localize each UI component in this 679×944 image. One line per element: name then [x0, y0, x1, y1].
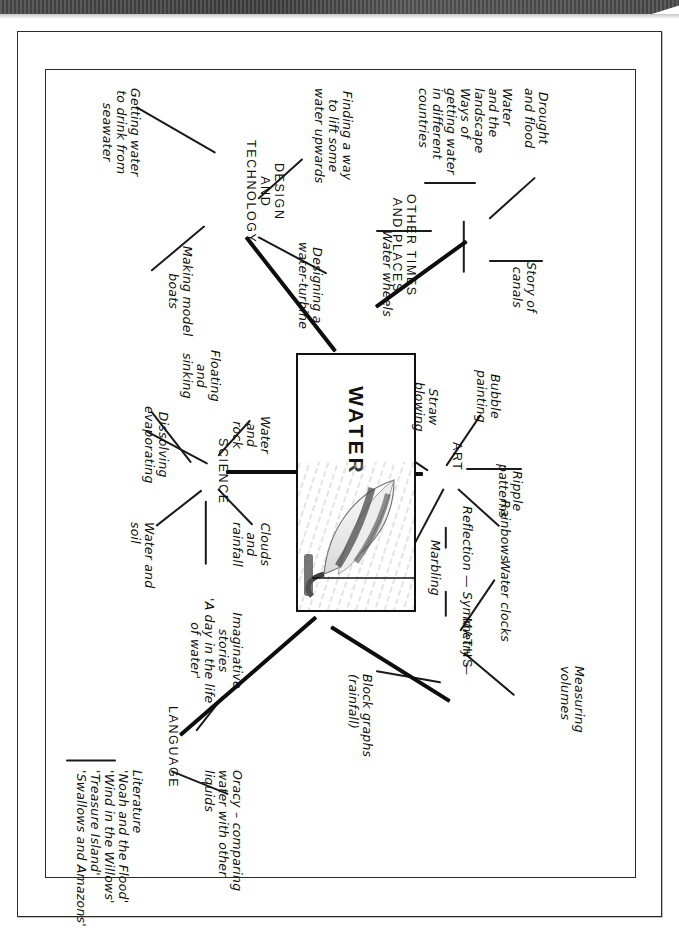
label-water-wheels: Water wheels [380, 230, 394, 317]
label-design-and-technology: DESIGN AND TECHNOLOGY [244, 140, 286, 244]
label-making-model-boats: Making model boats [166, 246, 194, 336]
label-dissolving-evaporating: Dissolving evaporating [142, 406, 170, 484]
label-block-graphs: Block graphs (rainfall) [346, 674, 374, 757]
label-designing-water-turbine: Designing a water-turbine [296, 242, 324, 329]
connector-symmetry-maths-dash [445, 591, 447, 617]
connector-lang-to-literature [66, 760, 116, 762]
label-bubble-painting: Bubble painting [474, 370, 502, 423]
label-maths: MATHS [460, 618, 474, 669]
label-marbling: Marbling [428, 540, 442, 596]
scanner-dark-band [0, 0, 679, 14]
label-getting-water-seawater: Getting water to drink from seawater [100, 88, 142, 177]
topic-web-frame: WATER [45, 69, 636, 878]
label-finding-a-way: Finding a way to lift some water upwards [312, 88, 354, 184]
label-art: ART [450, 442, 464, 472]
label-water-and-landscape: Water and the landscape [472, 88, 514, 153]
connector-otp-to-drought [488, 177, 535, 220]
central-topic-box: WATER [296, 353, 416, 612]
label-literature: Literature 'Noah and the Flood' 'Wind in… [74, 770, 144, 927]
connector-otp-to-waterland [463, 221, 465, 273]
label-floating-and-sinking: Floating and sinking [180, 350, 222, 402]
connector-reflection-symmetry-dash [445, 527, 447, 549]
scanned-page: WATER [0, 0, 679, 944]
label-clouds-and-rainfall: Clouds and rainfall [230, 522, 272, 567]
scanner-band-shadow [0, 14, 679, 19]
label-rainbows: Rainbows [498, 500, 512, 562]
connector-sci-to-soil [156, 489, 203, 526]
umbrella-in-rain-illustration [298, 462, 414, 610]
label-water-clocks: Water clocks [498, 560, 512, 642]
connector-sci-to-imaginative [205, 501, 207, 565]
label-story-of-canals: Story of canals [510, 262, 538, 313]
connector-dt-to-seawater [136, 106, 216, 153]
label-straw-blowing: Straw blowing [412, 382, 440, 432]
label-oracy: Oracy – comparing water with other liqui… [202, 770, 244, 891]
label-water-and-rock: Water and rock [230, 416, 272, 454]
label-science: SCIENCE [216, 438, 230, 505]
label-imaginative-stories: Imaginative stories 'A day in the life o… [188, 598, 244, 703]
label-water-and-soil: Water and soil [128, 522, 156, 588]
label-drought-and-flood: Drought and flood [522, 88, 550, 148]
label-measuring-volumes: Measuring volumes [558, 666, 586, 733]
label-ways-of-getting-water: Ways of getting water in different count… [416, 88, 472, 175]
label-language: LANGUAGE [166, 706, 180, 788]
connector-otp-to-ways [424, 182, 476, 184]
